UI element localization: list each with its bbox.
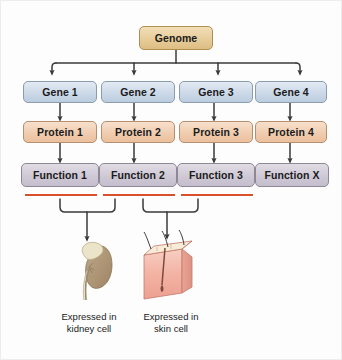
node-protein-1[interactable]: Protein 1 [23, 121, 97, 143]
node-protein-1-label: Protein 1 [37, 126, 83, 138]
node-genome[interactable]: Genome [139, 26, 213, 50]
node-gene-1-label: Gene 1 [42, 86, 78, 98]
node-protein-2-label: Protein 2 [115, 126, 161, 138]
node-protein-4-label: Protein 4 [268, 126, 314, 138]
node-protein-2[interactable]: Protein 2 [101, 121, 175, 143]
node-function-3-label: Function 3 [189, 169, 243, 181]
node-gene-2[interactable]: Gene 2 [101, 81, 175, 103]
caption-skin-line2: skin cell [125, 323, 217, 335]
node-function-2[interactable]: Function 2 [99, 163, 177, 187]
function-1-underline [25, 194, 97, 196]
node-function-2-label: Function 2 [111, 169, 165, 181]
node-function-1-label: Function 1 [33, 169, 87, 181]
kidney-icon [82, 242, 112, 300]
node-function-3[interactable]: Function 3 [177, 163, 255, 187]
function-2-underline [103, 194, 175, 196]
caption-kidney-line1: Expressed in [43, 311, 135, 323]
node-gene-4-label: Gene 4 [273, 86, 309, 98]
caption-kidney: Expressed in kidney cell [43, 311, 135, 335]
node-function-x-label: Function X [264, 169, 319, 181]
caption-skin: Expressed in skin cell [125, 311, 217, 335]
node-gene-3-label: Gene 3 [198, 86, 234, 98]
node-gene-2-label: Gene 2 [120, 86, 156, 98]
skin-block-icon [144, 230, 192, 299]
caption-kidney-line2: kidney cell [43, 323, 135, 335]
node-protein-3[interactable]: Protein 3 [179, 121, 253, 143]
diagram-canvas: Genome Gene 1 Gene 2 Gene 3 Gene 4 Prote… [0, 0, 342, 360]
node-protein-4[interactable]: Protein 4 [255, 121, 327, 143]
node-gene-4[interactable]: Gene 4 [255, 81, 327, 103]
node-genome-label: Genome [155, 32, 198, 44]
function-3-underline [181, 194, 253, 196]
node-function-x[interactable]: Function X [255, 163, 329, 187]
caption-skin-line1: Expressed in [125, 311, 217, 323]
node-protein-3-label: Protein 3 [193, 126, 239, 138]
node-function-1[interactable]: Function 1 [21, 163, 99, 187]
node-gene-1[interactable]: Gene 1 [23, 81, 97, 103]
node-gene-3[interactable]: Gene 3 [179, 81, 253, 103]
